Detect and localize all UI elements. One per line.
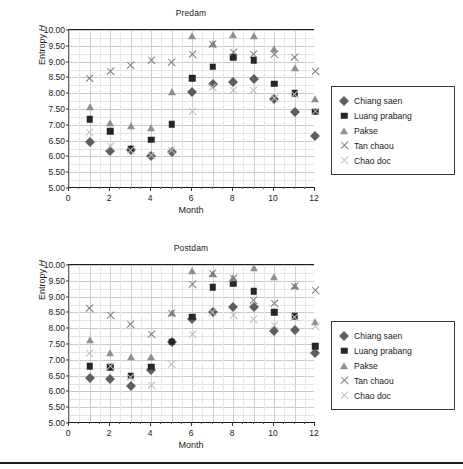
plot-area: 10.009.509.008.508.007.507.006.506.005.5… — [68, 264, 314, 422]
y-axis-tick-mark — [66, 359, 69, 360]
x-axis-tick-label: 0 — [66, 428, 71, 438]
y-axis-tick-label: 5.50 — [48, 167, 65, 177]
y-axis-tick-label: 10.00 — [44, 25, 65, 35]
y-axis-tick-label: 6.50 — [48, 136, 65, 146]
x-axis-tick-mark — [222, 187, 223, 189]
legend-marker-cross-light-icon — [340, 156, 349, 165]
x-axis-tick-mark — [242, 187, 243, 189]
chart-title: Predam — [68, 8, 314, 18]
x-axis-tick-mark — [160, 187, 161, 189]
y-axis-tick-mark — [66, 407, 69, 408]
x-axis-tick-mark — [89, 187, 90, 189]
y-axis-tick-mark — [66, 124, 69, 125]
x-axis: 024681012 — [68, 422, 314, 423]
gridline-vertical — [233, 265, 234, 422]
legend-marker-cross-icon — [340, 141, 349, 150]
gridline-vertical — [274, 265, 275, 422]
legend-label: Luang prabang — [354, 111, 412, 121]
x-axis-tick-mark — [99, 422, 100, 424]
legend-item: Pakse — [338, 123, 449, 138]
gridline-vertical — [233, 30, 234, 187]
x-axis-tick-mark — [140, 422, 141, 424]
gridline-vertical — [151, 265, 152, 422]
y-axis-tick-mark — [66, 109, 69, 110]
gridline-vertical — [79, 30, 80, 187]
y-axis-tick-mark — [66, 375, 69, 376]
x-axis-tick-mark — [283, 187, 284, 189]
legend-item: Chiang saen — [338, 328, 449, 343]
y-axis-tick-label: 10.00 — [44, 260, 65, 270]
x-axis-tick-mark — [119, 187, 120, 189]
x-axis-tick-label: 10 — [268, 193, 277, 203]
y-axis-tick-label: 8.50 — [48, 72, 65, 82]
x-axis-tick-mark — [222, 422, 223, 424]
y-axis-tick-mark — [66, 328, 69, 329]
gridline-vertical — [79, 265, 80, 422]
y-axis-tick-mark — [66, 77, 69, 78]
y-axis-tick-mark — [66, 45, 69, 46]
gridline-vertical — [100, 265, 101, 422]
x-axis-tick-mark — [119, 422, 120, 424]
x-axis-tick-mark — [232, 422, 233, 426]
y-axis-tick-label: 6.00 — [48, 151, 65, 161]
gridline-vertical — [243, 265, 244, 422]
legend-marker-triangle-icon — [338, 360, 350, 372]
x-axis-tick-mark — [191, 422, 192, 426]
x-axis-tick-label: 0 — [66, 193, 71, 203]
gridline-vertical — [192, 265, 193, 422]
legend-item: Luang prabang — [338, 343, 449, 358]
legend-item: Tan chaou — [338, 138, 449, 153]
gridline-vertical — [264, 30, 265, 187]
x-axis-tick-mark — [294, 187, 295, 189]
grid-layer — [69, 30, 314, 187]
legend-label: Tan chaou — [354, 141, 394, 151]
gridline-vertical — [182, 265, 183, 422]
y-axis-tick-label: 5.00 — [48, 183, 65, 193]
legend-label: Chao doc — [354, 391, 391, 401]
x-axis-tick-mark — [150, 187, 151, 191]
x-axis-tick-mark — [160, 422, 161, 424]
y-axis-tick-label: 9.50 — [48, 41, 65, 51]
x-axis-tick-mark — [314, 422, 315, 426]
x-axis-tick-mark — [253, 422, 254, 424]
legend-marker-square-icon — [341, 347, 348, 354]
legend-marker-diamond-icon — [339, 96, 349, 106]
x-axis-tick-mark — [171, 187, 172, 189]
legend-label: Chiang saen — [354, 331, 402, 341]
x-axis-tick-mark — [304, 422, 305, 424]
gridline-vertical — [131, 30, 132, 187]
y-axis-label: Entropy H — [31, 0, 45, 90]
legend-marker-diamond-icon — [338, 95, 350, 107]
y-axis-tick-mark — [66, 30, 69, 31]
x-axis-tick-mark — [273, 422, 274, 426]
legend-marker-cross-light-icon — [338, 155, 350, 167]
y-axis-tick-label: 6.50 — [48, 371, 65, 381]
legend-label: Chiang saen — [354, 96, 402, 106]
gridline-vertical — [192, 30, 193, 187]
x-axis-tick-mark — [109, 422, 110, 426]
y-axis-tick-label: 7.50 — [48, 104, 65, 114]
x-axis-label: Month — [68, 440, 314, 450]
gridline-vertical — [100, 30, 101, 187]
y-axis-label: Entropy H — [31, 235, 45, 325]
y-axis-tick-mark — [66, 156, 69, 157]
y-axis-tick-mark — [66, 391, 69, 392]
x-axis-tick-mark — [232, 187, 233, 191]
gridline-vertical — [120, 30, 121, 187]
x-axis-tick-mark — [140, 187, 141, 189]
gridline-vertical — [202, 265, 203, 422]
x-axis-tick-mark — [130, 422, 131, 424]
gridline-vertical — [90, 265, 91, 422]
y-axis-tick-label: 8.00 — [48, 323, 65, 333]
x-axis-tick-mark — [283, 422, 284, 424]
y-axis-tick-label: 5.00 — [48, 418, 65, 428]
x-axis-tick-mark — [181, 422, 182, 424]
y-axis-tick-label: 7.50 — [48, 339, 65, 349]
gridline-vertical — [274, 30, 275, 187]
legend-label: Chao doc — [354, 156, 391, 166]
entropy-figure: Predam Entropy H 10.009.509.008.508.007.… — [0, 0, 463, 469]
legend-item: Chao doc — [338, 388, 449, 403]
y-axis-tick-mark — [66, 61, 69, 62]
x-axis-tick-label: 6 — [189, 428, 194, 438]
legend-marker-cross-icon — [338, 140, 350, 152]
